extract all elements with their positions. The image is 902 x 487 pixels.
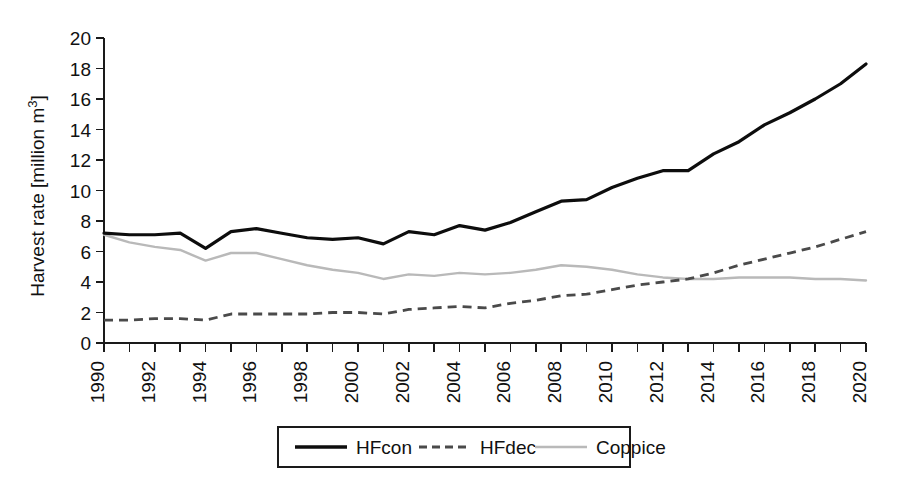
x-axis-group: 1990199219941996199820002002200420062008… [87, 343, 870, 403]
y-tick-label: 0 [80, 333, 91, 354]
harvest-rate-line-chart: 02468101214161820 1990199219941996199820… [0, 0, 902, 487]
y-axis-title: Harvest rate [million m3] [25, 95, 48, 297]
x-axis-tick-labels: 1990199219941996199820002002200420062008… [87, 361, 870, 404]
y-tick-label: 14 [70, 120, 92, 141]
y-tick-label: 4 [80, 272, 91, 293]
x-tick-label: 2020 [849, 361, 870, 403]
x-tick-label: 2010 [595, 361, 616, 403]
x-tick-label: 2012 [646, 361, 667, 403]
chart-legend: HFconHFdecCoppice [278, 427, 666, 467]
x-tick-label: 2018 [798, 361, 819, 403]
y-axis-title-text: Harvest rate [million m3] [25, 95, 48, 297]
y-axis-group: 02468101214161820 [70, 28, 104, 354]
y-tick-label: 6 [80, 242, 91, 263]
x-tick-label: 1996 [239, 361, 260, 403]
legend-label-coppice: Coppice [596, 437, 666, 458]
x-tick-label: 2004 [443, 361, 464, 404]
series-line-hfdec [104, 232, 866, 320]
y-tick-label: 2 [80, 303, 91, 324]
series-line-hfcon [104, 64, 866, 249]
y-tick-label: 8 [80, 211, 91, 232]
y-tick-label: 12 [70, 150, 91, 171]
y-tick-label: 10 [70, 181, 91, 202]
x-tick-label: 1994 [189, 361, 210, 404]
x-tick-label: 2000 [341, 361, 362, 403]
x-axis-ticks [104, 343, 866, 352]
x-tick-label: 2016 [747, 361, 768, 403]
x-tick-label: 2006 [493, 361, 514, 403]
y-tick-label: 20 [70, 28, 91, 49]
series-plot-group [104, 64, 866, 320]
y-tick-label: 18 [70, 59, 91, 80]
x-tick-label: 1992 [138, 361, 159, 403]
y-axis-ticks [96, 38, 104, 343]
y-tick-label: 16 [70, 89, 91, 110]
x-tick-label: 1998 [290, 361, 311, 403]
x-tick-label: 1990 [87, 361, 108, 403]
y-axis-tick-labels: 02468101214161820 [70, 28, 92, 354]
x-tick-label: 2008 [544, 361, 565, 403]
chart-canvas: 02468101214161820 1990199219941996199820… [0, 0, 902, 487]
x-tick-label: 2014 [697, 361, 718, 404]
legend-label-hfdec: HFdec [480, 437, 536, 458]
x-tick-label: 2002 [392, 361, 413, 403]
legend-label-hfcon: HFcon [356, 437, 412, 458]
